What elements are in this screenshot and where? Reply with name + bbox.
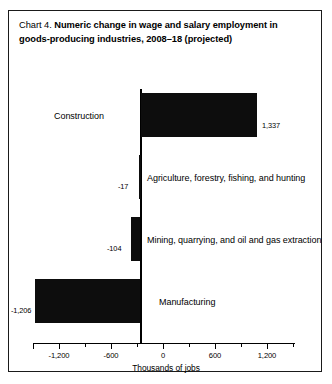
x-axis-tick-minor xyxy=(241,343,242,347)
x-axis-tick-major xyxy=(267,343,268,349)
x-axis-tick-minor xyxy=(189,343,190,347)
x-axis-tick-label: -600 xyxy=(104,351,119,360)
chart-title: Chart 4. Numeric change in wage and sala… xyxy=(19,19,311,46)
bar-row: -17 Agriculture, forestry, fishing, and … xyxy=(21,151,311,213)
x-axis-tick-minor xyxy=(85,343,86,347)
chart-title-line-1: Chart 4. Numeric change in wage and sala… xyxy=(19,19,311,33)
chart-number-label: Chart 4. xyxy=(19,20,52,30)
x-axis: -1,200 -600 0 600 1,200 Thousands of job… xyxy=(21,343,311,373)
x-axis-tick-major xyxy=(215,343,216,349)
x-axis-tick-label: 600 xyxy=(209,351,221,360)
bar-mining xyxy=(131,217,140,261)
plot-area: 1,337 Construction -17 Agriculture, fore… xyxy=(21,89,311,347)
x-axis-tick-label: -1,200 xyxy=(49,351,70,360)
bar-label-agriculture: Agriculture, forestry, fishing, and hunt… xyxy=(147,173,305,183)
bar-row: -104 Mining, quarrying, and oil and gas … xyxy=(21,213,311,275)
bar-row: -1,206 Manufacturing xyxy=(21,275,311,337)
bar-label-mining: Mining, quarrying, and oil and gas extra… xyxy=(147,235,321,245)
bar-agriculture xyxy=(139,155,141,199)
x-axis-tick-major xyxy=(163,343,164,349)
bar-label-construction: Construction xyxy=(54,111,104,121)
bar-construction xyxy=(141,93,257,137)
chart-title-text-line-1: Numeric change in wage and salary employ… xyxy=(54,20,277,30)
x-axis-tick-label: 1,200 xyxy=(258,351,277,360)
x-axis-tick-major xyxy=(59,343,60,349)
bar-manufacturing xyxy=(35,279,140,323)
bar-value-manufacturing: -1,206 xyxy=(11,306,31,315)
bar-value-agriculture: -17 xyxy=(118,182,128,191)
x-axis-caption: Thousands of jobs xyxy=(21,363,311,373)
x-axis-tick-major xyxy=(111,343,112,349)
bar-label-manufacturing: Manufacturing xyxy=(159,297,215,307)
bar-row: 1,337 Construction xyxy=(21,89,311,151)
chart-card: Chart 4. Numeric change in wage and sala… xyxy=(8,10,322,372)
x-axis-tick-minor xyxy=(137,343,138,347)
chart-title-text-line-2: goods-producing industries, 2008–18 (pro… xyxy=(19,33,311,47)
x-axis-tick-minor xyxy=(293,343,294,347)
bar-value-construction: 1,337 xyxy=(262,121,280,130)
bar-value-mining: -104 xyxy=(107,244,121,253)
x-axis-tick-minor xyxy=(33,343,34,349)
x-axis-tick-label: 0 xyxy=(161,351,165,360)
